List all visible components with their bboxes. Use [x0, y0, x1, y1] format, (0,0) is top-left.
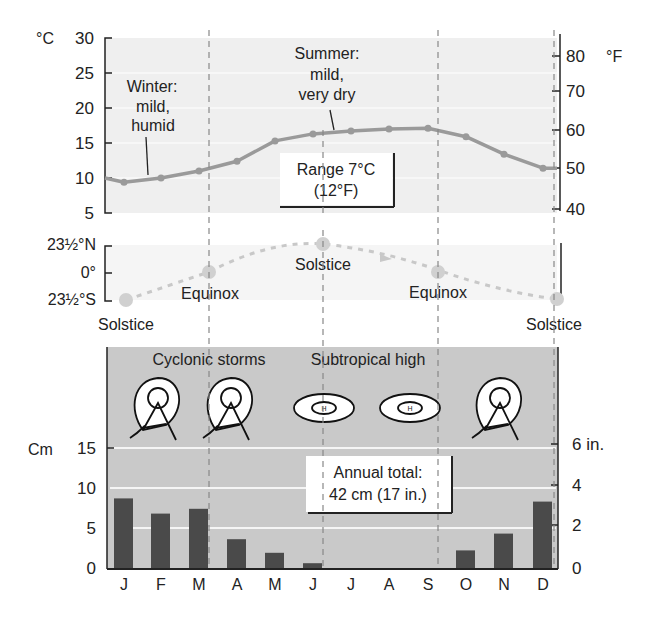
svg-text:Solstice: Solstice: [98, 316, 154, 333]
cm-unit-label: Cm: [28, 441, 53, 458]
svg-text:Subtropical high: Subtropical high: [311, 351, 426, 368]
month-label: O: [460, 576, 472, 593]
y-tick-label: 2: [572, 516, 581, 535]
y-tick-label: 0: [87, 559, 96, 578]
month-label: A: [384, 576, 395, 593]
precipitation-bar: [189, 509, 208, 568]
month-label: F: [156, 576, 166, 593]
month-label: M: [268, 576, 281, 593]
y-tick-label: 0: [572, 559, 581, 578]
y-tick-label: 10: [75, 169, 94, 188]
svg-text:(12°F): (12°F): [314, 182, 359, 199]
y-tick-label: 4: [572, 476, 581, 495]
declination-y-ticks: 23½°N 0° 23½°S: [47, 236, 96, 308]
annual-total-box: Annual total: 42 cm (17 in.): [306, 456, 452, 513]
y-tick-label: 80: [566, 47, 585, 66]
month-label: J: [120, 576, 128, 593]
temperature-point: [158, 175, 165, 182]
svg-text:Annual total:: Annual total:: [334, 464, 423, 481]
svg-text:Summer:: Summer:: [295, 45, 360, 62]
temperature-point: [425, 125, 432, 132]
month-label: N: [498, 576, 510, 593]
svg-text:H: H: [321, 405, 326, 412]
precipitation-bar: [151, 514, 170, 568]
svg-text:mild,: mild,: [136, 98, 170, 115]
y-tick-label: 6 in.: [572, 435, 604, 454]
y-tick-label: 50: [566, 159, 585, 178]
temperature-point: [540, 165, 547, 172]
temperature-point: [121, 179, 128, 186]
svg-text:mild,: mild,: [310, 66, 344, 83]
declination-panel: 23½°N 0° 23½°S Solstice Equinox Solstice…: [47, 236, 582, 333]
svg-text:23½°N: 23½°N: [47, 236, 96, 253]
month-label: J: [309, 576, 317, 593]
y-tick-label: 30: [75, 29, 94, 48]
month-label: D: [537, 576, 549, 593]
month-label: A: [232, 576, 243, 593]
y-tick-label: 15: [77, 439, 96, 458]
temperature-point: [310, 130, 317, 137]
temperature-point: [501, 151, 508, 158]
celsius-unit-label: °C: [36, 30, 54, 47]
temperature-point: [196, 168, 203, 175]
precipitation-panel: 051015 Cm 0246 in. JFMAMJJASOND Cyclonic…: [28, 347, 604, 593]
temperature-point: [348, 128, 355, 135]
range-box: Range 7°C (12°F): [280, 153, 394, 207]
svg-text:0°: 0°: [81, 264, 96, 281]
y-tick-label: 25: [75, 64, 94, 83]
temperature-point: [234, 158, 241, 165]
y-tick-label: 5: [85, 204, 94, 223]
svg-text:42 cm (17 in.): 42 cm (17 in.): [329, 486, 427, 503]
precipitation-bar: [494, 534, 513, 568]
svg-text:humid: humid: [131, 117, 175, 134]
precipitation-bar: [303, 563, 322, 568]
y-tick-label: 60: [566, 121, 585, 140]
temperature-panel: 51015202530 °C 4050607080 °F Winter: mil…: [36, 29, 622, 223]
temperature-point: [386, 126, 393, 133]
y-tick-label: 70: [566, 82, 585, 101]
temperature-point: [463, 133, 470, 140]
precipitation-y-ticks: 051015: [77, 439, 96, 578]
month-label: J: [347, 576, 355, 593]
svg-text:Winter:: Winter:: [127, 78, 178, 95]
y-tick-label: 10: [77, 479, 96, 498]
y-tick-label: 20: [75, 99, 94, 118]
y-tick-label: 5: [87, 519, 96, 538]
climate-chart: 51015202530 °C 4050607080 °F Winter: mil…: [0, 0, 654, 619]
month-labels: JFMAMJJASOND: [120, 576, 549, 593]
month-label: S: [423, 576, 434, 593]
svg-text:23½°S: 23½°S: [48, 291, 96, 308]
precipitation-bar: [227, 539, 246, 568]
y-tick-label: 40: [566, 200, 585, 219]
precipitation-bar: [265, 553, 284, 568]
svg-text:Range 7°C: Range 7°C: [297, 161, 375, 178]
precipitation-bar: [533, 502, 552, 568]
month-label: M: [192, 576, 205, 593]
temperature-point: [272, 137, 279, 144]
svg-text:very dry: very dry: [299, 86, 356, 103]
temperature-y-ticks: 51015202530: [75, 29, 94, 223]
fahrenheit-y-ticks: 4050607080: [566, 47, 585, 219]
precipitation-bar: [456, 550, 475, 568]
inch-y-ticks: 0246 in.: [572, 435, 604, 578]
precipitation-bar: [114, 498, 133, 568]
y-tick-label: 15: [75, 134, 94, 153]
fahrenheit-unit-label: °F: [606, 48, 622, 65]
svg-text:H: H: [407, 405, 412, 412]
svg-text:Equinox: Equinox: [181, 285, 239, 302]
